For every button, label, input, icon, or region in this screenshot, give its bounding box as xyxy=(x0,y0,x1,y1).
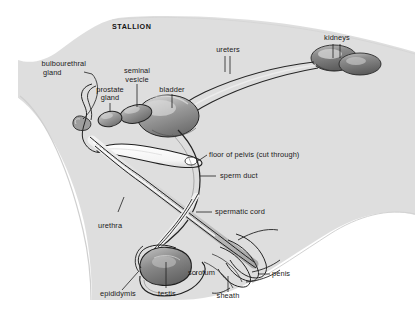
label-spermatic-cord: spermatic cord xyxy=(215,208,265,217)
label-bulbourethral-gland-line2: gland xyxy=(43,69,62,78)
label-epididymis: epididymis xyxy=(100,290,136,299)
label-urethra: urethra xyxy=(98,222,122,231)
label-prostate-gland-line2: gland xyxy=(87,94,133,103)
label-seminal-vesicle-line2: vesicle xyxy=(114,76,160,85)
label-testis: testis xyxy=(150,290,184,299)
figure-title: STALLION xyxy=(112,22,151,31)
label-kidneys: kidneys xyxy=(315,34,359,43)
label-bladder: bladder xyxy=(152,86,192,95)
label-sheath: sheath xyxy=(210,292,246,301)
label-ureters: ureters xyxy=(207,46,249,55)
label-scrotum: scrotum xyxy=(188,269,215,278)
label-floor-of-pelvis: floor of pelvis (cut through) xyxy=(209,151,299,160)
anatomical-diagram-figure: STALLION bulbourethral gland prostate gl… xyxy=(0,0,415,318)
label-penis: penis xyxy=(272,270,290,279)
label-sperm-duct: sperm duct xyxy=(220,172,258,181)
